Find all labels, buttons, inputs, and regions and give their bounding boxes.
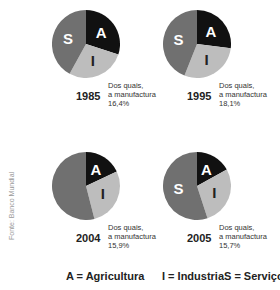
- slice-label-I: I: [212, 184, 216, 201]
- manufacturing-note: Dos quais,a manufactura15,7%: [219, 223, 267, 250]
- legend-agriculture: A = Agricultura: [66, 270, 144, 282]
- legend-industry: I = Industria: [162, 270, 224, 282]
- slice-label-S: S: [174, 180, 184, 197]
- slice-label-A: A: [201, 161, 212, 178]
- slice-label-A: A: [91, 161, 102, 178]
- pie-chart-1995: AIS: [163, 10, 231, 78]
- manufacturing-note: Dos quais,a manufactura15,9%: [108, 223, 156, 250]
- slice-label-S: S: [174, 31, 184, 48]
- pie-chart-2005: AIS: [163, 152, 231, 220]
- slice-label-S: S: [63, 30, 73, 47]
- slice-label-I: I: [91, 52, 95, 69]
- year-label: 1985: [76, 90, 100, 102]
- slice-label-A: A: [96, 24, 107, 41]
- year-label: 1995: [187, 90, 211, 102]
- legend-services: S = Serviços: [224, 270, 280, 282]
- source-note: Fonte: Banco Mundial: [8, 172, 15, 240]
- year-label: 2005: [187, 232, 211, 244]
- year-label: 2004: [76, 232, 100, 244]
- pie-chart-1985: AIS: [52, 10, 120, 78]
- pie-chart-2004: AI: [52, 152, 120, 220]
- slice-label-I: I: [101, 185, 105, 202]
- slice-label-A: A: [206, 23, 217, 40]
- slice-label-I: I: [204, 51, 208, 68]
- manufacturing-note: Dos quais,a manufactura18,1%: [219, 81, 267, 108]
- manufacturing-note: Dos quais,a manufactura16,4%: [108, 81, 156, 108]
